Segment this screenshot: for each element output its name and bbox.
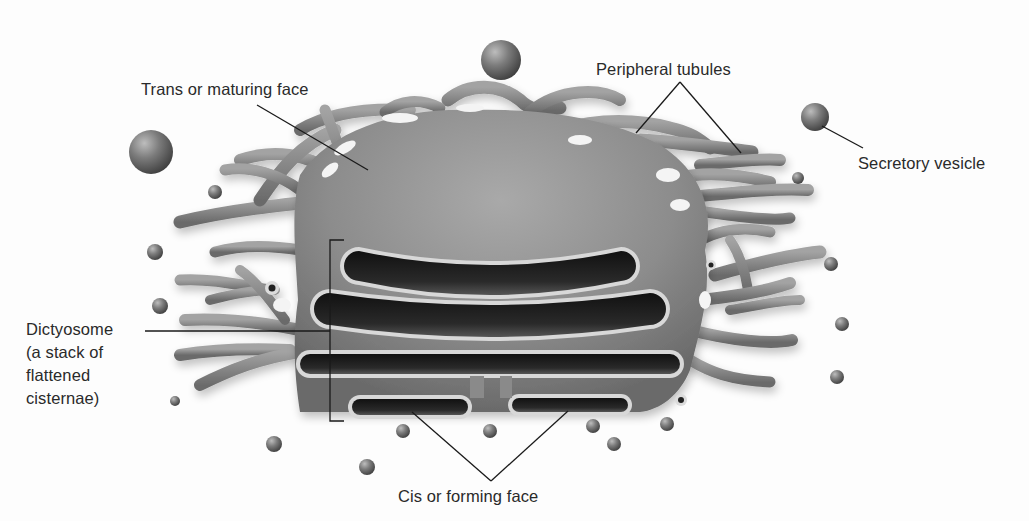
cisterna-3 — [296, 350, 684, 378]
transport-vesicle — [830, 370, 844, 384]
leader-cis-face — [491, 411, 568, 481]
label-secretory-vesicle: Secretory vesicle — [858, 152, 985, 175]
transport-vesicle — [660, 417, 674, 431]
transport-vesicle — [835, 317, 849, 331]
cisterna-4-cis-left — [348, 395, 472, 419]
transport-vesicle — [266, 436, 282, 452]
leader-secretory-vesicle — [822, 126, 863, 148]
transport-vesicle — [208, 185, 222, 199]
transport-vesicle — [586, 419, 600, 433]
label-peripheral-tubules: Peripheral tubules — [596, 58, 731, 81]
transport-vesicle — [359, 459, 375, 475]
secretory-vesicle — [481, 40, 521, 80]
transport-vesicle — [483, 424, 497, 438]
secretory-vesicle — [129, 130, 173, 174]
transport-vesicle — [792, 172, 804, 184]
label-cis-face: Cis or forming face — [398, 485, 538, 508]
transport-vesicle — [607, 437, 621, 451]
cisterna-5-cis-right — [508, 394, 632, 416]
transport-vesicle — [824, 257, 838, 271]
transport-vesicle — [147, 244, 163, 260]
transport-vesicle — [152, 298, 168, 314]
golgi-diagram: Trans or maturing face Peripheral tubule… — [0, 0, 1029, 521]
transport-vesicle — [170, 396, 180, 406]
label-dictyosome-line-4: cisternae) — [26, 387, 113, 410]
label-dictyosome-line-1: Dictyosome — [26, 318, 113, 341]
label-dictyosome: Dictyosome (a stack of flattened cistern… — [26, 318, 113, 410]
label-dictyosome-line-3: flattened — [26, 364, 113, 387]
leader-cis-face — [412, 412, 491, 481]
label-dictyosome-line-2: (a stack of — [26, 341, 113, 364]
label-trans-face: Trans or maturing face — [141, 78, 309, 101]
transport-vesicle — [396, 424, 410, 438]
